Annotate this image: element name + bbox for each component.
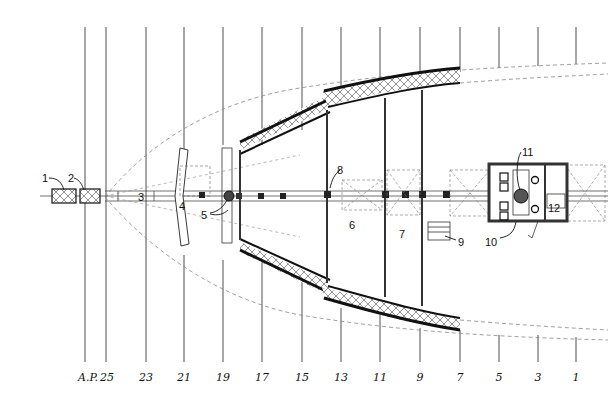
callout-6-compartment: 6: [349, 220, 355, 231]
station-label-11: 11: [373, 372, 387, 383]
callout-9-ladder: 9: [458, 237, 464, 248]
stern-tube-5: [224, 191, 234, 201]
station-label-15: 15: [295, 372, 309, 383]
callout-4-rudder: 4: [179, 201, 185, 212]
station-label-17: 17: [255, 372, 269, 383]
station-label-ap: A.P.: [78, 372, 98, 383]
station-label-23: 23: [139, 372, 153, 383]
station-label-3: 3: [535, 372, 542, 383]
side-wall-lower: [240, 239, 460, 330]
station-label-5: 5: [496, 372, 503, 383]
station-label-9: 9: [417, 372, 424, 383]
station-label-13: 13: [334, 372, 348, 383]
side-wall-upper: [240, 68, 460, 154]
rudder-blade: [175, 148, 189, 246]
callout-3-shaft: 3: [138, 192, 144, 203]
propeller-hubs: [52, 189, 100, 203]
station-label-21: 21: [177, 372, 191, 383]
callout-7-compartment: 7: [399, 229, 405, 240]
station-label-19: 19: [216, 372, 230, 383]
callout-12-cabin: 12: [548, 203, 560, 214]
ladder-9: [428, 222, 450, 240]
callout-1-propeller: 1: [42, 173, 48, 184]
ship-plan-drawing: [0, 0, 608, 412]
station-label-1: 1: [573, 372, 580, 383]
station-label-25: 25: [100, 372, 114, 383]
callout-11-hatch: 11: [522, 147, 533, 158]
callout-2-propeller: 2: [68, 173, 74, 184]
deckhouse: [489, 164, 567, 238]
bulkhead-fittings: [258, 191, 450, 199]
callout-8-fitting: 8: [337, 165, 343, 176]
callout-10-deckhouse: 10: [485, 237, 497, 248]
callout-5-stern-tube: 5: [201, 210, 207, 221]
station-label-7: 7: [457, 372, 464, 383]
